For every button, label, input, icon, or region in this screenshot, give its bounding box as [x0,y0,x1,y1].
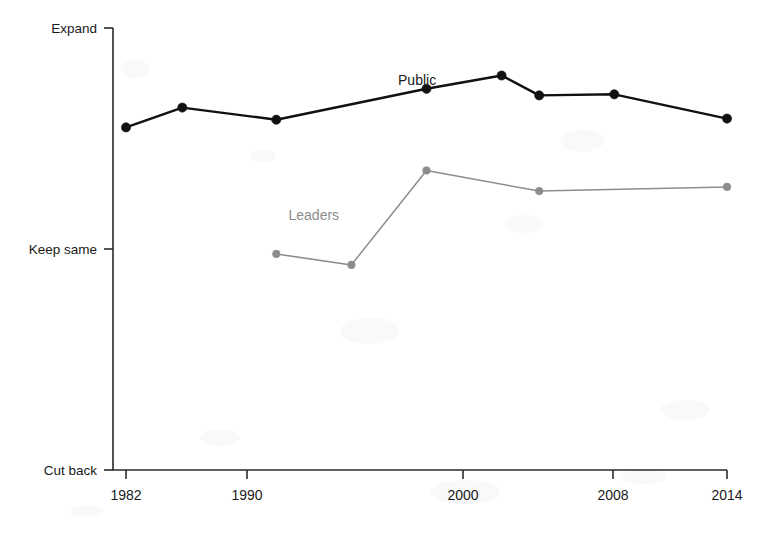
x-tick-label: 1982 [110,487,141,503]
data-point [497,71,506,80]
data-point [610,90,619,99]
data-point [272,115,281,124]
y-axis-tick-labels: ExpandKeep sameCut back [29,21,98,478]
y-tick-label: Expand [51,21,97,36]
data-point [535,91,544,100]
data-point [121,123,130,132]
x-axis-tick-labels: 19821990200020082014 [110,487,742,503]
data-point [273,250,281,258]
series-line [276,171,727,265]
chart-axes [104,28,727,479]
data-point [178,103,187,112]
data-point [348,261,356,269]
data-point [722,114,731,123]
x-tick-label: 2008 [597,487,628,503]
y-tick-label: Keep same [29,242,97,257]
series-label-leaders: Leaders [289,207,340,223]
data-point [723,183,731,191]
y-axis-ticks [104,28,113,470]
line-chart-canvas: ExpandKeep sameCut back 1982199020002008… [0,0,760,539]
x-axis-ticks [126,470,727,479]
x-tick-label: 2000 [447,487,478,503]
data-point [535,187,543,195]
series-label-public: Public [398,72,436,88]
data-series-layer [121,71,731,269]
x-tick-label: 1990 [231,487,262,503]
series-leaders [273,167,731,269]
x-tick-label: 2014 [711,487,742,503]
axis-spine [113,28,727,470]
data-point [423,167,431,175]
chart-figure: ExpandKeep sameCut back 1982199020002008… [0,0,760,539]
y-tick-label: Cut back [44,463,98,478]
